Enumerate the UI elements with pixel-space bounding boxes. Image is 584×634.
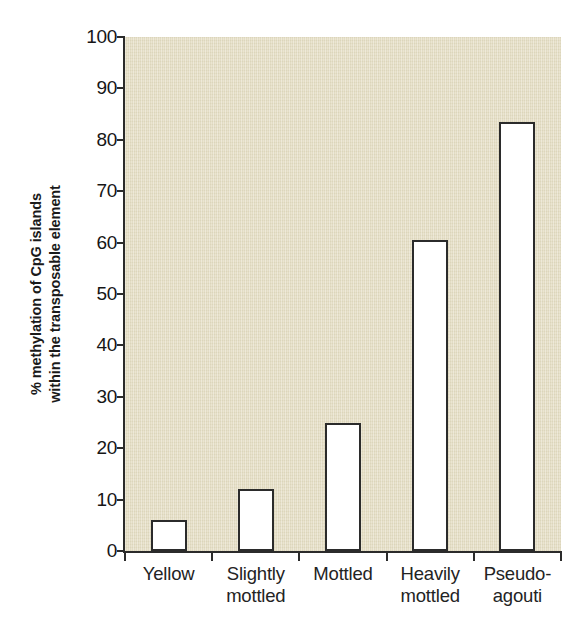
- y-axis-tick-mark: [117, 242, 124, 244]
- x-axis-tick-label: Mottled: [299, 563, 386, 585]
- plot-area: [125, 37, 561, 551]
- y-axis-tick-mark: [117, 36, 124, 38]
- y-axis-tick-label: 100: [86, 26, 117, 48]
- y-axis-tick-mark: [117, 87, 124, 89]
- x-axis-tick-mark: [298, 553, 300, 561]
- x-axis-tick-mark: [124, 553, 126, 561]
- x-axis-tick-label-line: Mottled: [299, 563, 386, 585]
- x-axis-tick-mark: [473, 553, 475, 561]
- y-axis-title-line-2: within the transposable element: [46, 185, 65, 403]
- x-axis-tick-label: Yellow: [125, 563, 212, 585]
- y-axis-tick-mark: [117, 550, 124, 552]
- x-axis-tick-mark: [386, 553, 388, 561]
- y-axis-tick-label: 20: [96, 437, 117, 459]
- y-axis-tick-mark: [117, 396, 124, 398]
- y-axis-tick-mark: [117, 293, 124, 295]
- y-axis-tick-mark: [117, 190, 124, 192]
- y-axis-tick-label: 60: [96, 232, 117, 254]
- cropped-caption-sliver: [0, 628, 584, 634]
- x-axis-tick-mark: [560, 553, 562, 561]
- x-axis-tick-label-line: Pseudo-: [474, 563, 561, 585]
- y-axis-tick-labels: 0102030405060708090100: [74, 37, 117, 551]
- x-axis-tick-label-line: Slightly: [212, 563, 299, 585]
- y-axis-tick-label: 70: [96, 180, 117, 202]
- y-axis-tick-label: 40: [96, 334, 117, 356]
- y-axis-tick-label: 90: [96, 77, 117, 99]
- y-axis-title: % methylation of CpG islands within the …: [18, 37, 74, 551]
- x-axis-tick-mark: [211, 553, 213, 561]
- y-axis-tick-mark: [117, 139, 124, 141]
- y-axis-tick-mark: [117, 447, 124, 449]
- y-axis-tick-label: 80: [96, 129, 117, 151]
- bar: [151, 520, 187, 551]
- x-axis-line: [123, 551, 562, 553]
- bar-chart-figure: % methylation of CpG islands within the …: [0, 0, 584, 634]
- x-axis-tick-label-line: Yellow: [125, 563, 212, 585]
- y-axis-tick-mark: [117, 499, 124, 501]
- bar: [238, 489, 274, 551]
- x-axis-tick-label: Pseudo-agouti: [474, 563, 561, 607]
- x-axis-tick-labels: YellowSlightlymottledMottledHeavilymottl…: [125, 563, 561, 625]
- x-axis-tick-label-line: mottled: [212, 585, 299, 607]
- y-axis-tick-label: 0: [107, 540, 117, 562]
- y-axis-tick-label: 50: [96, 283, 117, 305]
- bar: [412, 240, 448, 551]
- x-axis-tick-label-line: Heavily: [387, 563, 474, 585]
- x-axis-tick-label-line: agouti: [474, 585, 561, 607]
- x-axis-tick-label: Heavilymottled: [387, 563, 474, 607]
- x-axis-tick-label-line: mottled: [387, 585, 474, 607]
- y-axis-tick-mark: [117, 344, 124, 346]
- y-axis-tick-label: 10: [96, 489, 117, 511]
- bar: [325, 423, 361, 552]
- y-axis-title-line-1: % methylation of CpG islands: [27, 185, 46, 403]
- y-axis-tick-label: 30: [96, 386, 117, 408]
- y-axis-title-text: % methylation of CpG islands within the …: [27, 185, 65, 403]
- x-axis-tick-label: Slightlymottled: [212, 563, 299, 607]
- bar: [499, 122, 535, 551]
